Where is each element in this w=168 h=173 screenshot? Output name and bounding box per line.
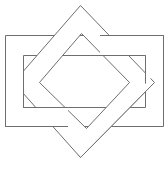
- diamond-frame: [14, 6, 155, 158]
- interlaced-knot-diagram: [0, 0, 168, 173]
